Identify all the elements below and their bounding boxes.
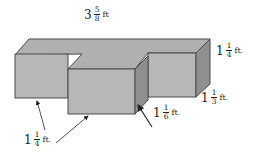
label-right-height: 1 14 ft. [216, 42, 243, 59]
arrow-middle-depth [138, 105, 152, 127]
right-block-front [148, 53, 196, 97]
arrow-middle-block [56, 116, 88, 143]
left-block-front [15, 54, 68, 98]
arrow-left-block [37, 101, 45, 130]
label-bottom-height: 1 14 ft. [24, 131, 51, 148]
label-right-depth: 1 13 ft. [201, 89, 228, 106]
label-length: 3 58 ft [84, 6, 109, 23]
label-middle-depth: 1 16 ft. [153, 104, 180, 121]
middle-block-front [68, 69, 135, 114]
